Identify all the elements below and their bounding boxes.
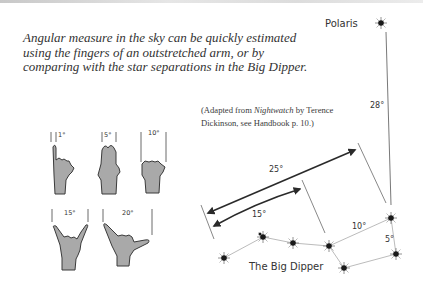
hand-angle-label: 15° — [64, 209, 76, 217]
fist-hand-icon — [142, 161, 165, 193]
separation-label-10: 10° — [352, 222, 366, 231]
polaris-star-icon — [375, 17, 387, 29]
hand-1-degree: 1° — [51, 131, 74, 194]
star-icon — [385, 212, 397, 224]
hand-15-degree: 15° — [52, 209, 88, 270]
star-icon — [338, 262, 350, 274]
hand-20-degree: 20° — [103, 209, 152, 266]
big-dipper-diagram: Polaris 28° 25° 15° 10° 5° The Big Dippe… — [201, 17, 402, 274]
star-icon — [390, 248, 402, 260]
hand-angle-label: 5° — [104, 131, 111, 139]
hand-angle-label: 1° — [58, 131, 65, 139]
star-icon — [257, 231, 269, 243]
arrow-15-degree — [214, 189, 300, 226]
hand-5-degree: 5° — [98, 131, 120, 194]
pinky-hand-icon — [53, 145, 74, 194]
star-icon — [323, 240, 335, 252]
separation-label-15: 15° — [252, 210, 266, 219]
three-fingers-hand-icon — [98, 146, 120, 195]
star-icon — [287, 237, 299, 249]
arrow-25-degree — [208, 150, 355, 213]
big-dipper-label: The Big Dipper — [248, 261, 324, 272]
hand-angle-label: 10° — [148, 129, 160, 137]
separation-label-28: 28° — [370, 101, 384, 110]
star-icon — [218, 252, 230, 264]
hand-10-degree: 10° — [141, 129, 166, 193]
polaris-label: Polaris — [325, 18, 358, 29]
thumb-pinky-spread-hand-icon — [104, 224, 149, 266]
index-pinky-spread-hand-icon — [53, 225, 87, 270]
diagram-canvas: 1° 5° 10° 15° 20° — [0, 0, 423, 286]
hand-angle-label: 20° — [122, 209, 134, 217]
separation-label-25: 25° — [269, 165, 283, 174]
separation-label-5: 5° — [385, 235, 394, 244]
